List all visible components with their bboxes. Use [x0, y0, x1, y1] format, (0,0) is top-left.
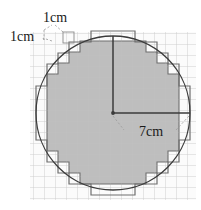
- center-point: [111, 111, 115, 115]
- unit-length-label-left: 1cm: [10, 29, 34, 44]
- geometry-figure: 1cm 1cm 7cm: [0, 0, 201, 210]
- radius-length-label: 7cm: [139, 124, 163, 139]
- unit-top-leader: [55, 25, 63, 32]
- unit-length-label-top: 1cm: [43, 10, 67, 25]
- figure-canvas: 1cm 1cm 7cm: [0, 0, 201, 210]
